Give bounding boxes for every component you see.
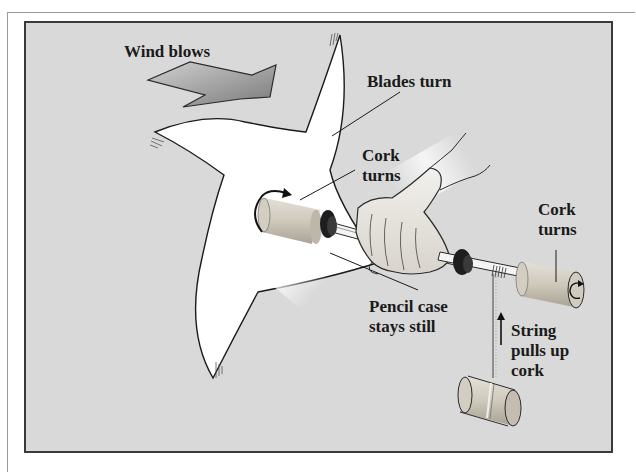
label-blades-turn: Blades turn: [367, 72, 452, 91]
label-pencil-case-line2: stays still: [369, 317, 436, 336]
label-pencil-case-line1: Pencil case: [369, 297, 448, 316]
label-wind-blows: Wind blows: [124, 42, 210, 61]
label-string-line3: cork: [511, 361, 544, 380]
label-cork-turns-front-line1: Cork: [362, 146, 400, 165]
label-string-line2: pulls up: [511, 341, 569, 360]
label-string-line1: String: [511, 321, 556, 340]
label-cork-turns-front-line2: turns: [362, 166, 401, 185]
label-cork-turns-back-line1: Cork: [538, 200, 576, 219]
label-cork-turns-back-line2: turns: [538, 220, 577, 239]
